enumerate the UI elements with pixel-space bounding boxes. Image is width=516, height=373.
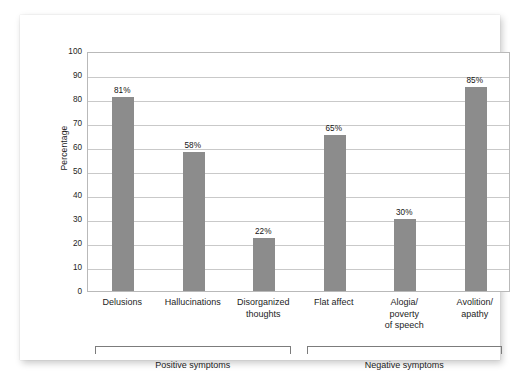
y-axis-tick-label: 80 xyxy=(56,95,82,104)
gridline xyxy=(88,269,509,270)
y-axis-tick-label: 50 xyxy=(56,167,82,176)
gridline xyxy=(88,221,509,222)
figure-card: Percentage 1009080706050403020100 81%58%… xyxy=(20,15,500,360)
gridline xyxy=(88,173,509,174)
gridline xyxy=(88,245,509,246)
bar-value-label: 85% xyxy=(455,76,495,85)
bar-value-label: 81% xyxy=(102,86,142,95)
bar-value-label: 65% xyxy=(314,124,354,133)
gridline xyxy=(88,77,509,78)
bar xyxy=(183,152,205,291)
y-axis-tick-label: 90 xyxy=(56,71,82,80)
bar xyxy=(465,87,487,291)
y-axis-tick-label: 70 xyxy=(56,119,82,128)
group-label: Negative symptoms xyxy=(307,360,503,370)
group-bracket xyxy=(95,346,291,354)
group-bracket xyxy=(307,346,503,354)
y-axis-tick-label: 0 xyxy=(56,287,82,296)
bar-value-label: 58% xyxy=(173,141,213,150)
bar xyxy=(253,238,275,291)
bar xyxy=(324,135,346,291)
plot-area xyxy=(87,52,510,292)
y-axis-tick-label: 100 xyxy=(56,47,82,56)
figure-root: Percentage 1009080706050403020100 81%58%… xyxy=(0,0,516,373)
gridline xyxy=(88,125,509,126)
y-axis-tick-label: 60 xyxy=(56,143,82,152)
bar-value-label: 22% xyxy=(243,227,283,236)
y-axis-tick-label: 40 xyxy=(56,191,82,200)
bar xyxy=(394,219,416,291)
gridline xyxy=(88,101,509,102)
x-axis-tick-label: Avolition/ apathy xyxy=(433,297,516,320)
y-axis-tick-label: 20 xyxy=(56,239,82,248)
group-label: Positive symptoms xyxy=(95,360,291,370)
bar-value-label: 30% xyxy=(384,208,424,217)
bar xyxy=(112,97,134,291)
y-axis-tick-label: 30 xyxy=(56,215,82,224)
y-axis-tick-label: 10 xyxy=(56,263,82,272)
gridline xyxy=(88,149,509,150)
gridline xyxy=(88,197,509,198)
